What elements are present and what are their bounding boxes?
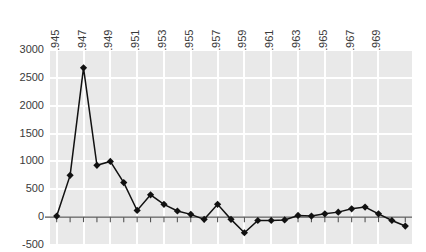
data-point-marker — [294, 212, 301, 219]
data-point-marker — [268, 217, 275, 224]
chart-container: -500050010001500200025003000 19451947194… — [0, 0, 426, 252]
data-point-marker — [321, 210, 328, 217]
data-point-marker — [93, 162, 100, 169]
data-point-marker — [80, 64, 87, 71]
data-point-marker — [361, 204, 368, 211]
data-point-marker — [402, 222, 409, 229]
data-point-marker — [308, 212, 315, 219]
series-markers — [53, 64, 409, 236]
data-point-marker — [107, 158, 114, 165]
data-point-marker — [335, 209, 342, 216]
data-point-marker — [348, 205, 355, 212]
data-point-marker — [375, 210, 382, 217]
data-point-marker — [174, 207, 181, 214]
data-point-marker — [120, 179, 127, 186]
data-point-marker — [53, 212, 60, 219]
data-point-marker — [388, 217, 395, 224]
data-layer — [0, 0, 426, 252]
data-point-marker — [67, 172, 74, 179]
